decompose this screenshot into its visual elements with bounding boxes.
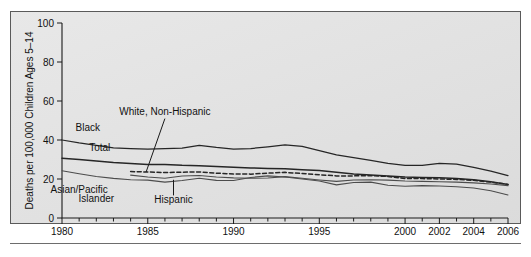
annotation-hispanic: Hispanic [154,194,192,205]
chart-axes [62,23,508,218]
series-line-asian-pacific-islander [62,171,508,195]
x-axis-tick-label: 1990 [222,226,245,237]
x-axis-tick-label: 1980 [51,226,74,237]
x-axis-tick-label: 2000 [394,226,417,237]
x-axis-tick-label: 2006 [497,226,520,237]
y-axis-tick-label: 100 [37,18,54,29]
x-axis-tick-label: 2004 [463,226,486,237]
y-axis-tick-label: 40 [43,135,55,146]
x-axis-tick-label: 1985 [137,226,160,237]
annotation-islander: Islander [79,193,115,204]
annotation-total: Total [89,142,110,153]
line-chart-svg: 0204060801001980198519901995200020022004… [0,0,531,257]
y-axis-tick-label: 0 [48,213,54,224]
annotation-black: Black [76,122,101,133]
y-axis-tick-label: 80 [43,57,55,68]
annotation-white-non-hispanic: White, Non-Hispanic [119,106,210,117]
y-axis-tick-label: 60 [43,96,55,107]
y-axis-title: Deaths per 100,000 Children Ages 5–14 [24,31,35,209]
x-axis-tick-label: 1995 [308,226,331,237]
series-line-black [62,140,508,176]
chart-figure: 0204060801001980198519901995200020022004… [0,0,531,257]
series-line-total [62,158,508,184]
x-axis-tick-label: 2002 [428,226,451,237]
